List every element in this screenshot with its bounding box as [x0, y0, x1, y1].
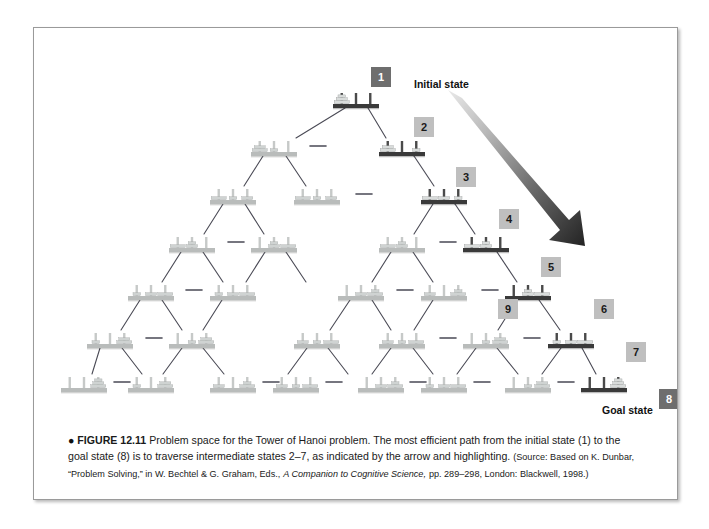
- state-chip-4[interactable]: 4: [499, 209, 519, 229]
- base-shadow: [379, 156, 425, 157]
- hanoi-state-node[interactable]: [294, 333, 340, 349]
- base-board: [294, 344, 340, 348]
- disk: [413, 149, 421, 152]
- hanoi-state-node[interactable]: [294, 189, 340, 205]
- state-chip-8[interactable]: 8: [659, 389, 678, 409]
- base-board: [61, 388, 107, 392]
- base-board: [463, 344, 509, 348]
- disk: [270, 149, 278, 152]
- caption-source-title: A Companion to Cognitive Science,: [283, 469, 426, 479]
- initial-state-label: Initial state: [414, 78, 469, 90]
- base-board: [87, 344, 133, 348]
- hanoi-state-node[interactable]: [379, 333, 425, 349]
- base-board: [379, 152, 425, 156]
- disk: [398, 242, 406, 245]
- disk: [495, 338, 506, 341]
- base-board: [421, 388, 467, 392]
- disk: [199, 341, 214, 344]
- hanoi-state-node[interactable]: [210, 189, 256, 205]
- hanoi-state-node[interactable]: [358, 377, 404, 393]
- disk: [242, 197, 253, 200]
- hanoi-state-node[interactable]: [463, 333, 509, 349]
- disk: [535, 385, 550, 388]
- disk: [382, 341, 393, 344]
- base-board: [273, 388, 319, 392]
- hanoi-state-node[interactable]: [505, 377, 551, 393]
- disk: [535, 293, 550, 296]
- disk: [464, 245, 479, 248]
- hanoi-state-node-highlighted[interactable]: [379, 141, 425, 157]
- disk: [336, 98, 347, 101]
- disk: [313, 197, 321, 200]
- state-chip-2[interactable]: 2: [414, 117, 434, 137]
- base-board: [463, 248, 509, 252]
- state-chip-6-label: 6: [601, 304, 607, 315]
- state-chip-3[interactable]: 3: [456, 167, 476, 187]
- disk: [380, 245, 395, 248]
- base-shadow: [169, 252, 215, 253]
- disk: [160, 382, 171, 385]
- hanoi-state-node[interactable]: [61, 377, 107, 393]
- peg: [401, 141, 403, 152]
- state-chip-7[interactable]: 7: [626, 342, 646, 362]
- disk: [578, 341, 593, 344]
- base-board: [169, 344, 215, 348]
- base-board: [251, 248, 297, 252]
- hanoi-state-node[interactable]: [128, 285, 174, 301]
- disk: [613, 382, 624, 385]
- disk: [229, 197, 237, 200]
- base-shadow: [210, 392, 256, 393]
- base-board: [169, 248, 215, 252]
- disk: [211, 197, 226, 200]
- hanoi-state-node[interactable]: [128, 377, 174, 393]
- disk: [240, 293, 255, 296]
- state-chip-6[interactable]: 6: [594, 299, 614, 319]
- disk: [368, 293, 383, 296]
- disk: [398, 341, 406, 344]
- base-shadow: [294, 204, 340, 205]
- base-board: [210, 200, 256, 204]
- base-board: [210, 388, 256, 392]
- hanoi-state-node-highlighted[interactable]: [333, 93, 379, 109]
- disk: [553, 341, 561, 344]
- peg: [259, 237, 261, 248]
- hanoi-state-node[interactable]: [210, 377, 256, 393]
- state-chip-9-label: 9: [505, 304, 511, 315]
- base-shadow: [210, 300, 256, 301]
- hanoi-state-node[interactable]: [87, 333, 133, 349]
- hanoi-state-node-highlighted[interactable]: [463, 237, 509, 253]
- hanoi-state-node[interactable]: [169, 237, 215, 253]
- hanoi-state-node-highlighted[interactable]: [581, 377, 627, 393]
- hanoi-state-node-highlighted[interactable]: [421, 189, 467, 205]
- hanoi-state-node[interactable]: [210, 285, 256, 301]
- base-shadow: [87, 348, 133, 349]
- hanoi-state-node[interactable]: [379, 237, 425, 253]
- hanoi-state-node[interactable]: [421, 285, 467, 301]
- disk: [295, 197, 310, 200]
- state-chip-9[interactable]: 9: [498, 299, 518, 319]
- disk: [92, 341, 100, 344]
- peg: [232, 377, 234, 388]
- hanoi-state-node-highlighted[interactable]: [548, 333, 594, 349]
- hanoi-state-node[interactable]: [251, 141, 297, 157]
- state-chip-1[interactable]: 1: [371, 67, 391, 87]
- hanoi-state-node[interactable]: [251, 237, 297, 253]
- peg: [603, 377, 605, 388]
- base-board: [358, 388, 404, 392]
- hanoi-state-node[interactable]: [273, 377, 319, 393]
- peg: [287, 141, 289, 152]
- hanoi-state-node[interactable]: [421, 377, 467, 393]
- hanoi-state-node[interactable]: [338, 285, 384, 301]
- hanoi-state-node[interactable]: [169, 333, 215, 349]
- disk: [187, 245, 198, 248]
- disk: [170, 245, 185, 248]
- disk: [297, 341, 308, 344]
- state-chip-5[interactable]: 5: [541, 257, 561, 277]
- disk: [158, 385, 173, 388]
- base-shadow: [358, 392, 404, 393]
- hanoi-state-nodes: [61, 93, 627, 393]
- peg: [513, 285, 515, 296]
- state-chip-3-label: 3: [463, 172, 469, 183]
- peg: [69, 377, 71, 388]
- disk: [119, 338, 130, 341]
